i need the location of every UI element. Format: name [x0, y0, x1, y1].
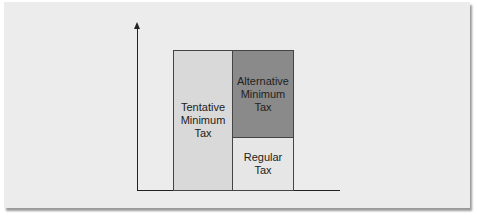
y-axis — [137, 26, 138, 190]
tentative-minimum-tax-label: Tentative Minimum Tax — [181, 101, 226, 140]
tentative-minimum-tax-box: Tentative Minimum Tax — [173, 50, 233, 191]
regular-tax-box: Regular Tax — [232, 137, 294, 191]
regular-tax-label: Regular Tax — [244, 151, 283, 177]
alternative-minimum-tax-label: Alternative Minimum Tax — [237, 75, 289, 114]
alternative-minimum-tax-box: Alternative Minimum Tax — [232, 50, 294, 138]
